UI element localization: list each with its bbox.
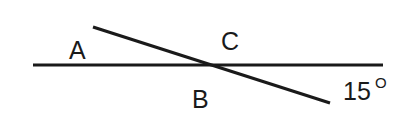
label-point-b: B (192, 85, 209, 113)
angle-value-label: 15 (343, 77, 371, 105)
label-point-a: A (69, 36, 86, 64)
intersecting-lines-diagram: A C B 15 O (0, 0, 404, 127)
label-point-c: C (221, 27, 239, 55)
degree-symbol: O (375, 74, 387, 91)
